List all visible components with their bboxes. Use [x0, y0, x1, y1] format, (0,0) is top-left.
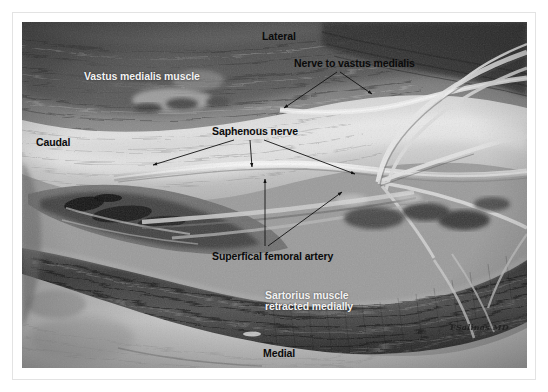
orientation-label-lateral: Lateral: [262, 31, 296, 42]
orientation-label-caudal: Caudal: [36, 137, 70, 148]
orientation-label-medial: Medial: [263, 348, 295, 359]
structure-label-vastus-medialis-muscle: Vastus medialis muscle: [84, 71, 200, 82]
dissection-photograph: Lateral Medial Caudal Vastus medialis mu…: [22, 22, 527, 368]
document-page: Lateral Medial Caudal Vastus medialis mu…: [0, 0, 548, 392]
structure-label-saphenous-nerve: Saphenous nerve: [212, 126, 298, 137]
structure-label-nerve-to-vastus-medialis: Nerve to vastus medialis: [294, 58, 415, 69]
structure-label-sartorius-retracted-medially: retracted medially: [265, 301, 353, 312]
structure-label-sartorius-muscle: Sartorius muscle: [265, 290, 349, 301]
author-signature: FSalinas MD: [450, 322, 509, 332]
structure-label-superficial-femoral-artery: Superfical femoral artery: [212, 251, 333, 262]
